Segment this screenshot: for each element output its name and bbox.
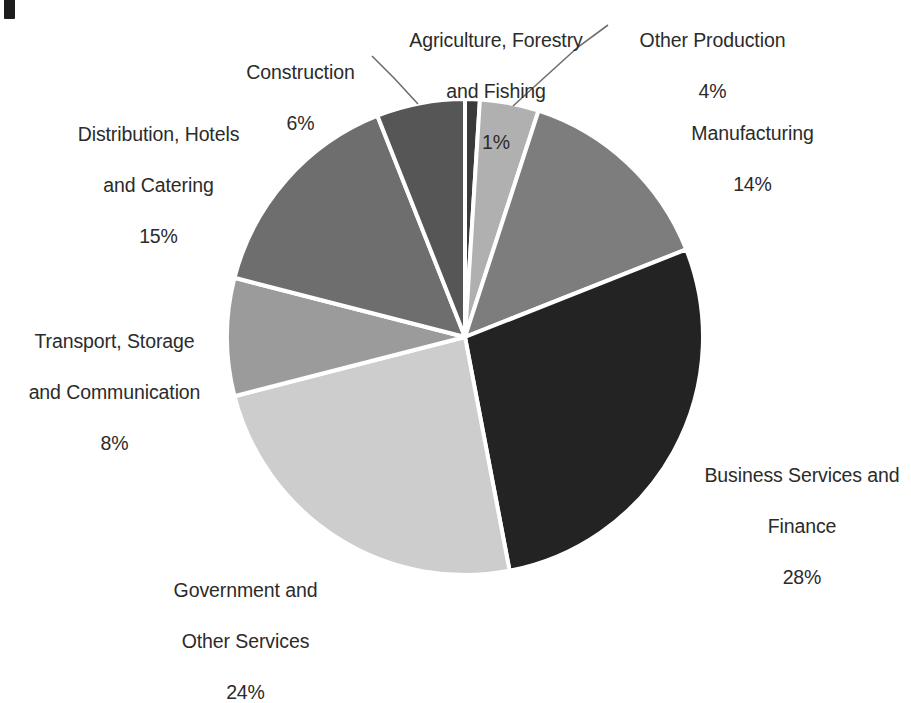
pie-label-business-line2: Finance [692, 514, 911, 540]
pie-label-manufacturing: Manufacturing 14% [640, 95, 865, 223]
pie-label-business-services-and-finance: Business Services and Finance 28% [692, 437, 911, 616]
pie-label-business-line1: Business Services and [692, 463, 911, 489]
pie-label-distribution-line1: Distribution, Hotels [46, 122, 271, 148]
pie-label-government-line2: Other Services [128, 629, 363, 655]
pie-label-business-value: 28% [692, 565, 911, 591]
pie-label-other-production-line1: Other Production [605, 28, 820, 54]
pie-label-agriculture-value: 1% [386, 130, 606, 156]
pie-label-distribution-line2: and Catering [46, 173, 271, 199]
pie-label-government-and-other-services: Government and Other Services 24% [128, 552, 363, 703]
pie-label-government-line1: Government and [128, 578, 363, 604]
pie-label-government-value: 24% [128, 680, 363, 703]
pie-label-agriculture-forestry-and-fishing: Agriculture, Forestry and Fishing 1% [386, 2, 606, 181]
pie-label-transport-line1: Transport, Storage [2, 329, 227, 355]
pie-label-manufacturing-line1: Manufacturing [640, 121, 865, 147]
pie-label-manufacturing-value: 14% [640, 172, 865, 198]
pie-label-agriculture-line1: Agriculture, Forestry [386, 28, 606, 54]
pie-label-construction-line1: Construction [218, 60, 383, 86]
pie-label-distribution-hotels-and-catering: Distribution, Hotels and Catering 15% [46, 96, 271, 275]
pie-label-transport-line2: and Communication [2, 380, 227, 406]
pie-label-transport-value: 8% [2, 431, 227, 457]
pie-label-transport-storage-and-communication: Transport, Storage and Communication 8% [2, 303, 227, 482]
pie-label-distribution-value: 15% [46, 224, 271, 250]
pie-label-agriculture-line2: and Fishing [386, 79, 606, 105]
